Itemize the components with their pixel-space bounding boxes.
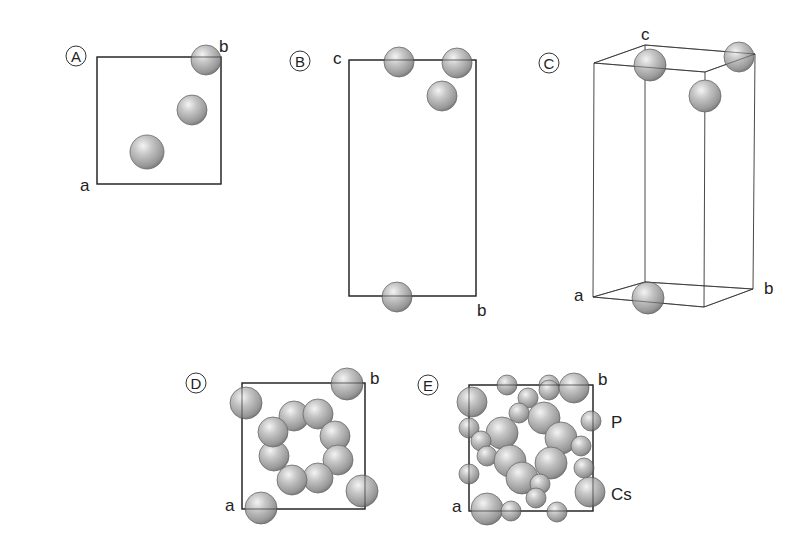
axis-label-b: b (764, 279, 773, 298)
axis-label-a: a (225, 496, 235, 515)
axis-label-a: a (452, 497, 462, 516)
panel-badge: B (290, 51, 310, 71)
panel-label: B (295, 53, 305, 70)
unit-cell-bottom-face-overlay (593, 282, 753, 307)
atoms (130, 45, 221, 169)
atoms (632, 42, 754, 314)
panel-label: C (544, 55, 555, 72)
axis-label-a: a (80, 176, 90, 195)
unit-cell-bottom-face (593, 282, 753, 307)
panel-c: Ccab (539, 25, 773, 314)
axis-label-b: b (477, 301, 486, 320)
axis-label-cs: Cs (611, 485, 632, 504)
panels-layer: AabBcbCcabDabEabPCs (66, 25, 773, 525)
panel-d: Dab (186, 368, 379, 524)
unit-cell-vertical-edge (593, 63, 594, 297)
panel-label: D (191, 375, 202, 392)
panel-label: A (71, 48, 81, 65)
panel-badge: D (186, 373, 206, 393)
axis-label-a: a (574, 286, 584, 305)
panel-badge: A (66, 46, 86, 66)
panel-badge: C (539, 53, 559, 73)
axis-label-b: b (219, 37, 228, 56)
axis-label-c: c (333, 49, 342, 68)
axis-label-b: b (370, 369, 379, 388)
atoms (230, 368, 378, 524)
atoms (382, 47, 472, 312)
panel-b: Bcb (290, 47, 486, 320)
panel-label: E (423, 377, 433, 394)
axis-label-c: c (641, 25, 650, 44)
panel-e: EabPCs (418, 370, 632, 525)
crystal-structure-figure: AabBcbCcabDabEabPCs (0, 0, 810, 546)
panel-badge: E (418, 375, 438, 395)
atoms (457, 373, 605, 525)
axis-label-b: b (598, 370, 607, 389)
unit-cell-vertical-edge (753, 54, 755, 289)
axis-label-p: P (611, 413, 622, 432)
panel-a: Aab (66, 37, 228, 195)
